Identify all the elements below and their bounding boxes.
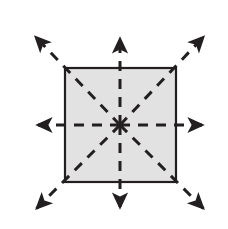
radiating-arrows-diagram	[0, 0, 228, 229]
diagram-canvas	[0, 0, 228, 229]
center-point	[117, 122, 122, 127]
